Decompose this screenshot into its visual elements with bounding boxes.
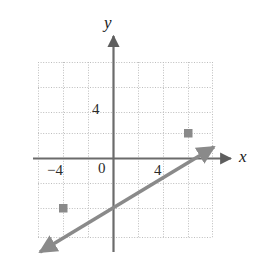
graph-figure: y x 4 0 −4 4 — [0, 0, 256, 264]
x-axis-label: x — [239, 148, 247, 165]
x-tick-label-4: 4 — [154, 163, 162, 178]
x-tick-label-negative-4: −4 — [47, 163, 63, 178]
y-axis-label: y — [104, 14, 112, 31]
data-point-marker — [59, 204, 68, 213]
plotted-line — [40, 147, 214, 252]
origin-label: 0 — [98, 161, 106, 176]
coordinate-plane — [0, 0, 256, 264]
data-point-marker — [184, 129, 193, 138]
y-tick-label-4: 4 — [92, 102, 100, 117]
